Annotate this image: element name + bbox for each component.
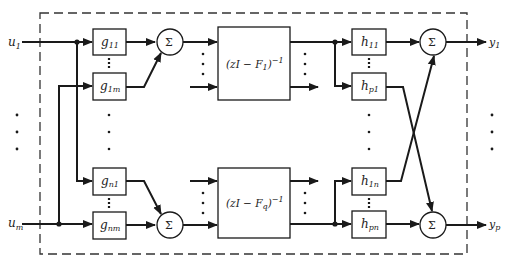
ellipsis-dot [304,212,307,215]
ellipsis-dot [368,131,371,134]
ellipsis-dot [491,131,494,134]
ellipsis-dot [304,202,307,205]
input-label-um: um [8,216,24,232]
ellipsis-dot [108,148,111,151]
ellipsis-dot [202,192,205,195]
gn1-output-line [126,181,161,214]
ellipsis-dot [304,192,307,195]
g1m-output-line [126,53,161,87]
ellipsis-dot [108,131,111,134]
ellipsis-dot [16,148,19,151]
ellipsis-dot [304,63,307,66]
ellipsis-dot [202,63,205,66]
output-label-y1: y1 [488,36,500,50]
output-label-yp: yp [488,218,500,232]
ellipsis-dot [16,114,19,117]
um-to-g1m-line [59,86,92,224]
ellipsis-dot [108,114,111,117]
summer-bottom-symbol: Σ [165,219,173,232]
to-hp1-line [335,42,351,86]
ellipsis-dot [202,73,205,76]
to-h1n-line [335,181,351,224]
ellipsis-dot [16,131,19,134]
ellipsis-dot [202,202,205,205]
summer-output-bottom-symbol: Σ [428,219,436,232]
input-label-u1: u1 [8,35,21,51]
ellipsis-dot [304,73,307,76]
u1-to-gn1-line [77,42,92,181]
ellipsis-dot [202,53,205,56]
summer-top-symbol: Σ [165,36,173,49]
summer-output-top-symbol: Σ [428,36,436,49]
ellipsis-dot [202,212,205,215]
ellipsis-dot [304,53,307,56]
ellipsis-dot [491,114,494,117]
ellipsis-dot [491,148,494,151]
ellipsis-dot [368,148,371,151]
ellipsis-dot [368,114,371,117]
block-diagram: u1 um g11 g1m gn1 gnm Σ Σ [0,0,508,267]
